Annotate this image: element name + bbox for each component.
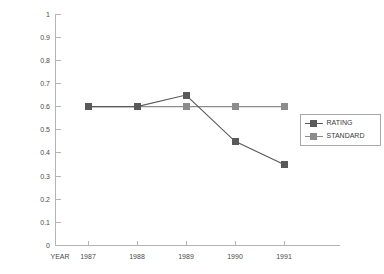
- legend-item-standard[interactable]: STANDARD: [305, 132, 365, 139]
- data-point-marker: [232, 104, 238, 110]
- legend-marker-swatch: [311, 134, 317, 140]
- y-tick-label: 0.1: [40, 219, 50, 226]
- data-point-marker: [281, 161, 287, 167]
- y-tick-label: 0.3: [40, 173, 50, 180]
- y-tick-label: 0.5: [40, 126, 50, 133]
- y-tick-label: 0.7: [40, 80, 50, 87]
- y-tick-label: 0.8: [40, 57, 50, 64]
- x-tick-label: 1988: [129, 253, 145, 260]
- x-axis-ticks: [88, 241, 284, 246]
- legend-label: STANDARD: [327, 132, 365, 139]
- data-point-marker: [281, 104, 287, 110]
- chart-legend: RATINGSTANDARD: [301, 115, 381, 146]
- x-axis-title: YEAR: [50, 253, 69, 260]
- x-tick-label: 1990: [227, 253, 243, 260]
- data-point-marker: [232, 138, 238, 144]
- legend-item-rating[interactable]: RATING: [305, 119, 353, 126]
- y-axis-tick-labels: 10.90.80.70.60.50.40.30.20.10: [40, 11, 50, 250]
- legend-label: RATING: [327, 119, 353, 126]
- x-axis: 19871988198919901991 YEAR: [50, 241, 340, 261]
- y-tick-label: 0.2: [40, 196, 50, 203]
- legend-marker-swatch: [311, 121, 317, 127]
- y-axis-ticks: [56, 14, 61, 246]
- y-tick-label: 0.6: [40, 103, 50, 110]
- data-point-marker: [183, 92, 189, 98]
- y-axis: 10.90.80.70.60.50.40.30.20.10: [40, 11, 60, 250]
- y-tick-label: 0.9: [40, 34, 50, 41]
- x-tick-label: 1987: [80, 253, 96, 260]
- chart-container: 10.90.80.70.60.50.40.30.20.10 1987198819…: [0, 0, 384, 274]
- data-point-marker: [134, 104, 140, 110]
- line-chart: 10.90.80.70.60.50.40.30.20.10 1987198819…: [0, 0, 384, 274]
- y-tick-label: 1: [46, 11, 50, 18]
- data-point-marker: [183, 104, 189, 110]
- x-axis-tick-labels: 19871988198919901991: [80, 253, 292, 260]
- y-tick-label: 0: [46, 242, 50, 249]
- data-point-marker: [85, 104, 91, 110]
- series-layer: [85, 92, 287, 167]
- y-tick-label: 0.4: [40, 149, 50, 156]
- x-tick-label: 1991: [276, 253, 292, 260]
- x-tick-label: 1989: [178, 253, 194, 260]
